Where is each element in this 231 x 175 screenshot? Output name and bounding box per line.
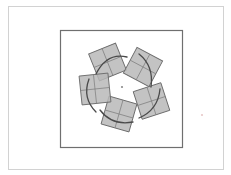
canvas-background [0, 0, 231, 175]
figure-root [0, 0, 231, 175]
stray-marker [201, 114, 203, 116]
figure-canvas [0, 0, 231, 175]
square-left [79, 73, 111, 105]
center-marker [121, 86, 123, 88]
